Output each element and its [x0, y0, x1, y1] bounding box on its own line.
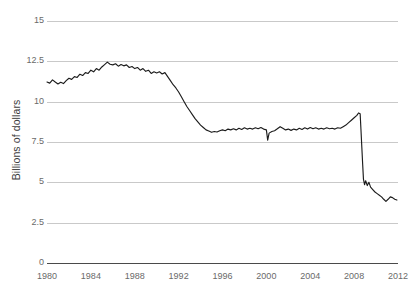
gridlines — [47, 22, 398, 224]
plot-area — [0, 0, 420, 298]
data-series — [47, 62, 397, 201]
line-chart: Billions of dollars 1512.5107.552.50 198… — [0, 0, 420, 298]
series-line — [47, 62, 397, 201]
